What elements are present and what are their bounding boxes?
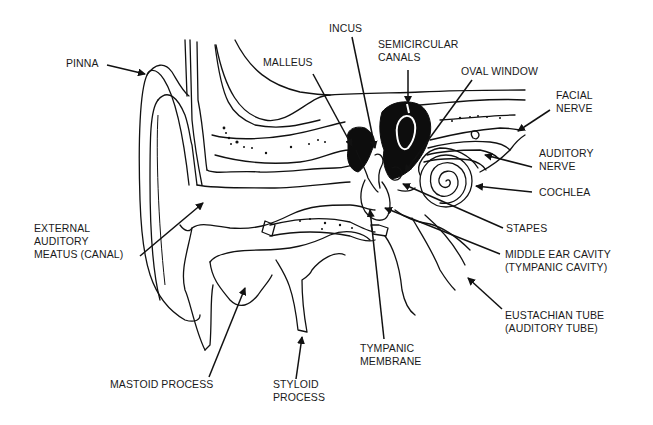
label-tympanic-membrane: TYMPANIC MEMBRANE [360,342,421,368]
leader-arrows [107,37,550,379]
ossicles [347,127,382,192]
label-malleus: MALLEUS [263,56,313,69]
label-cochlea: COCHLEA [539,186,590,199]
middle-ear-structures [361,180,470,315]
label-semicircular-canals: SEMICIRCULAR CANALS [378,38,459,64]
cochlea-shape [419,148,478,207]
lower-skull [180,205,375,350]
label-stapes: STAPES [506,222,547,235]
label-external-auditory-meatus: EXTERNAL AUDITORY MEATUS (CANAL) [34,222,123,261]
label-pinna: PINNA [66,57,99,70]
label-facial-nerve: FACIAL NERVE [556,89,593,115]
label-oval-window: OVAL WINDOW [461,65,538,78]
pinna-shape [139,40,207,321]
label-incus: INCUS [329,22,362,35]
label-auditory-nerve: AUDITORY NERVE [539,147,594,173]
label-eustachian-tube: EUSTACHIAN TUBE (AUDITORY TUBE) [505,309,604,335]
label-styloid-process: STYLOID PROCESS [273,378,325,404]
label-middle-ear-cavity: MIDDLE EAR CAVITY (TYMPANIC CAVITY) [505,248,611,274]
label-mastoid-process: MASTOID PROCESS [110,378,213,391]
